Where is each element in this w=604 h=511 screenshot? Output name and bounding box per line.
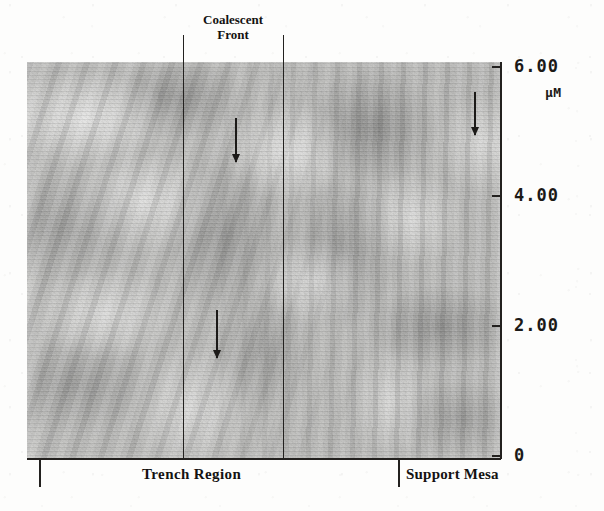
afm-micrograph-image [27, 62, 500, 458]
arrow-coalescent-upper-icon [231, 118, 240, 162]
vertical-axis-tick-2 [492, 325, 501, 327]
vertical-axis-tick-6 [492, 66, 501, 68]
horizontal-axis-line [27, 458, 501, 460]
support-mesa-label: Support Mesa [406, 466, 499, 483]
vertical-axis-line [500, 62, 502, 459]
arrow-support-mesa-icon [470, 92, 479, 135]
arrow-head [213, 350, 221, 359]
coalescent-front-left-line [183, 35, 184, 458]
vertical-axis-label-2: 2.00 [514, 315, 559, 335]
coalescent-front-label-line1: Coalescent [203, 12, 263, 27]
vertical-axis-tick-0 [492, 455, 501, 457]
coalescent-front-label-line2: Front [217, 27, 249, 42]
vertical-axis-label-6: 6.00 [514, 56, 559, 76]
coalescent-front-label: CoalescentFront [183, 12, 283, 42]
arrow-head [232, 154, 240, 163]
coalescent-front-right-line [283, 35, 284, 458]
vertical-axis-tick-4 [492, 195, 501, 197]
horizontal-axis-separator-right [398, 459, 400, 487]
afm-figure: 6.00 4.00 2.00 0 µM CoalescentFront Tren… [0, 0, 604, 511]
horizontal-axis-separator-left [39, 459, 41, 487]
vertical-axis-unit-label: µM [545, 85, 562, 100]
trench-region-label: Trench Region [142, 466, 241, 483]
vertical-axis-label-0: 0 [514, 445, 525, 465]
micrograph-vignette [27, 62, 500, 458]
arrow-coalescent-lower-icon [212, 310, 221, 358]
arrow-head [471, 127, 479, 136]
vertical-axis-label-4: 4.00 [514, 185, 559, 205]
